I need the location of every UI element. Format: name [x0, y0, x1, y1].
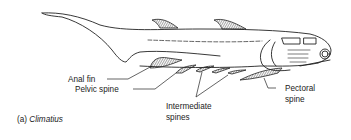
label-anal-fin: Anal fin [68, 75, 95, 84]
pectoral-leader [264, 78, 276, 88]
label-pectoral-line1: Pectoral [285, 84, 315, 93]
caption-prefix: (a) [17, 115, 27, 124]
dorsal-fins [152, 19, 246, 29]
label-intermediate-line1: Intermediate [166, 102, 212, 111]
climatius-figure: Anal fin Pelvic spine Intermediate spine… [0, 0, 351, 140]
pelvic-spine-leader [133, 73, 176, 89]
pelvic-spine-shape [176, 65, 196, 73]
intermediate-leader [196, 72, 228, 97]
label-pectoral-line2: spine [285, 95, 305, 104]
anal-fin-leader [107, 66, 152, 79]
pectoral-spine-shape [240, 68, 282, 80]
caption-species-name: Climatius [29, 115, 63, 124]
label-pelvic-spine: Pelvic spine [75, 85, 119, 94]
ventral-spines [150, 57, 282, 80]
anal-fin-shape [150, 57, 182, 68]
label-intermediate-line2: spines [166, 113, 190, 122]
figure-caption: (a) Climatius [17, 115, 63, 124]
